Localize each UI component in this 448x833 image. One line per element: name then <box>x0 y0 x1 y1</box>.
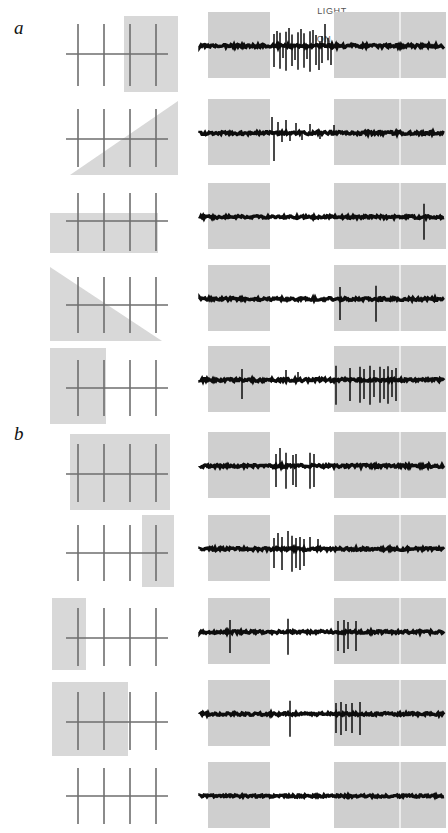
mask-patch <box>50 267 162 341</box>
trial-row-b1 <box>0 430 448 514</box>
trial-row-b2 <box>0 513 448 595</box>
stimulus-diagram <box>46 181 182 263</box>
recording-trace <box>198 430 446 502</box>
recording-trace <box>198 10 446 82</box>
baseline-noise <box>200 548 444 551</box>
recording-trace <box>198 181 446 253</box>
stimulus-diagram <box>46 678 182 762</box>
mask-patch <box>142 515 174 587</box>
recording-trace <box>198 596 446 668</box>
mask-patch <box>70 101 178 175</box>
trial-row-a3 <box>0 181 448 263</box>
stimulus-diagram <box>46 596 182 678</box>
recording-trace <box>198 513 446 585</box>
recording-trace <box>198 263 446 335</box>
baseline-noise <box>200 465 444 468</box>
recording-trace <box>198 678 446 750</box>
baseline-noise <box>200 379 444 382</box>
mask-patch <box>70 434 170 510</box>
baseline-noise <box>200 298 444 301</box>
trial-row-b5 <box>0 760 448 833</box>
recording-trace <box>198 344 446 416</box>
stimulus-diagram <box>62 430 182 514</box>
stimulus-diagram <box>46 263 182 347</box>
baseline-noise <box>200 713 444 716</box>
mask-patch <box>52 598 86 670</box>
trial-row-a2 <box>0 97 448 181</box>
recording-trace <box>198 97 446 169</box>
stimulus-diagram <box>62 513 182 595</box>
baseline-noise <box>200 795 444 797</box>
trial-row-b3 <box>0 596 448 678</box>
mask-patch <box>52 682 128 756</box>
trial-row-b4 <box>0 678 448 762</box>
figure-canvas: abLIGHTONOFFOFF <box>0 0 448 833</box>
baseline-noise <box>200 216 444 219</box>
stimulus-diagram <box>62 760 182 833</box>
trial-row-a5 <box>0 344 448 430</box>
trial-row-a4 <box>0 263 448 347</box>
trial-row-a1 <box>0 10 448 98</box>
stimulus-diagram <box>62 10 182 98</box>
recording-trace <box>198 760 446 832</box>
baseline-noise <box>200 631 444 634</box>
stimulus-diagram <box>46 344 182 430</box>
stimulus-diagram <box>62 97 182 181</box>
